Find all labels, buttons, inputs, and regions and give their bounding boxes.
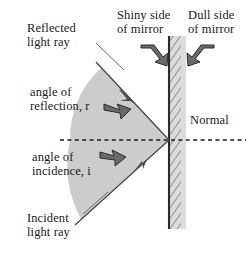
shiny-side-pointer-arrow <box>141 45 168 66</box>
label-incident-light-ray: Incident light ray <box>27 211 70 239</box>
label-normal: Normal <box>190 113 229 127</box>
dull-side-pointer-arrow <box>187 45 214 66</box>
label-shiny-side-of-mirror: Shiny side of mirror <box>117 8 170 36</box>
reflection-diagram: Reflected light ray Shiny side of mirror… <box>0 0 251 265</box>
label-reflected-light-ray: Reflected light ray <box>27 21 76 49</box>
mirror-hatching <box>169 36 181 229</box>
label-angle-of-incidence: angle of incidence, i <box>32 150 91 178</box>
label-dull-side-of-mirror: Dull side of mirror <box>188 8 234 36</box>
label-angle-of-reflection: angle of reflection, r <box>30 85 90 113</box>
